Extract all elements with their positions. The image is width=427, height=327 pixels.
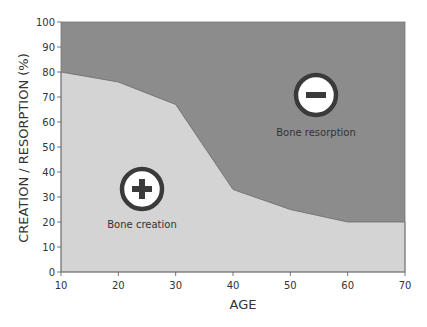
svg-text:40: 40: [42, 167, 55, 178]
minus-icon: [296, 75, 336, 115]
svg-text:30: 30: [42, 192, 55, 203]
svg-text:50: 50: [284, 280, 297, 291]
y-axis-label: CREATION / RESORPTION (%): [16, 53, 31, 243]
svg-text:100: 100: [36, 17, 55, 28]
resorption-label: Bone resorption: [276, 127, 356, 138]
svg-text:90: 90: [42, 42, 55, 53]
y-axis: 0102030405060708090100: [36, 17, 61, 278]
svg-text:80: 80: [42, 67, 55, 78]
svg-text:20: 20: [112, 280, 125, 291]
svg-text:70: 70: [399, 280, 412, 291]
svg-text:0: 0: [49, 267, 55, 278]
svg-text:60: 60: [42, 117, 55, 128]
bone-chart: 0102030405060708090100 10203040506070 AG…: [0, 0, 427, 327]
svg-text:60: 60: [341, 280, 354, 291]
plus-icon: [122, 169, 162, 209]
x-axis-label: AGE: [230, 297, 257, 312]
svg-text:50: 50: [42, 142, 55, 153]
svg-text:10: 10: [55, 280, 68, 291]
svg-text:10: 10: [42, 242, 55, 253]
svg-text:70: 70: [42, 92, 55, 103]
x-axis: 10203040506070: [55, 272, 412, 291]
svg-text:40: 40: [227, 280, 240, 291]
creation-label: Bone creation: [107, 219, 176, 230]
svg-text:20: 20: [42, 217, 55, 228]
svg-text:30: 30: [169, 280, 182, 291]
